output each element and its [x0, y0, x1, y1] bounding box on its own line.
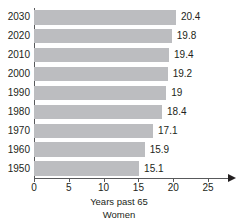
bar-value-label: 17.1	[158, 126, 177, 136]
bar-value-label: 19.2	[173, 69, 192, 79]
bar-chart: 203020202010200019901980197019601950 20.…	[0, 0, 238, 220]
arrow-right-icon	[228, 174, 236, 182]
bar	[34, 142, 145, 156]
bar-row: 19.2	[34, 65, 208, 84]
category-label: 2030	[8, 12, 30, 22]
bar-series-women: 20.419.819.419.21918.417.115.915.1	[34, 8, 208, 178]
bar	[34, 10, 176, 24]
bar-row: 19.8	[34, 27, 208, 46]
bar	[34, 124, 153, 138]
x-tick-label: 5	[66, 183, 72, 193]
bar-row: 17.1	[34, 121, 208, 140]
bar-row: 20.4	[34, 8, 208, 27]
bar-value-label: 15.9	[150, 145, 169, 155]
category-label: 1980	[8, 107, 30, 117]
bar-row: 19.4	[34, 46, 208, 65]
bar	[34, 86, 166, 100]
category-label: 1970	[8, 126, 30, 136]
bar-value-label: 18.4	[167, 107, 186, 117]
bar	[34, 67, 168, 81]
bar-value-label: 19	[171, 88, 182, 98]
bar-value-label: 19.8	[177, 31, 196, 41]
series-caption: Women	[0, 210, 238, 220]
category-label: 2020	[8, 31, 30, 41]
bar-row: 19	[34, 84, 208, 103]
x-tick-label: 20	[168, 183, 179, 193]
x-tick-label: 0	[31, 183, 37, 193]
x-axis-label: Years past 65	[0, 197, 238, 207]
x-tick-label: 15	[133, 183, 144, 193]
bar-value-label: 20.4	[181, 12, 200, 22]
bar	[34, 105, 162, 119]
bar	[34, 48, 169, 62]
bar-value-label: 19.4	[174, 50, 193, 60]
category-label: 2010	[8, 50, 30, 60]
category-label: 1950	[8, 164, 30, 174]
category-label: 2000	[8, 69, 30, 79]
x-tick-label: 25	[202, 183, 213, 193]
bar-value-label: 15.1	[144, 164, 163, 174]
bar	[34, 29, 172, 43]
category-label: 1990	[8, 88, 30, 98]
category-axis-labels: 203020202010200019901980197019601950	[0, 8, 32, 178]
category-label: 1960	[8, 145, 30, 155]
bar-row: 18.4	[34, 102, 208, 121]
bar-row: 15.9	[34, 140, 208, 159]
bar	[34, 161, 139, 175]
x-tick-label: 10	[98, 183, 109, 193]
bar-row: 15.1	[34, 159, 208, 178]
